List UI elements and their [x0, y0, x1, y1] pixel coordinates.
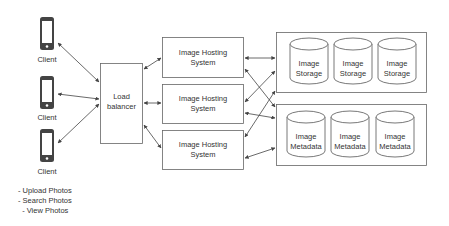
feature-notes: - Upload Photos - Search Photos - View P…: [18, 186, 72, 216]
svg-text:Metadata: Metadata: [379, 142, 411, 151]
hosting-system-2: Image Hosting System: [163, 85, 244, 124]
svg-text:Image: Image: [387, 59, 408, 68]
image-metadata-2: Image Metadata: [331, 111, 369, 157]
note-upload: - Upload Photos: [18, 186, 72, 196]
svg-text:Storage: Storage: [384, 69, 410, 78]
smartphone-icon: [40, 76, 54, 109]
svg-text:Image Hosting: Image Hosting: [179, 48, 227, 57]
svg-text:balancer: balancer: [107, 102, 136, 111]
svg-text:Image: Image: [340, 132, 361, 141]
hosting-system-3: Image Hosting System: [163, 131, 244, 170]
note-view: - View Photos: [18, 206, 72, 216]
lb-arrows: [144, 58, 161, 148]
storage-arrows: [245, 58, 275, 158]
client-label: Client: [37, 55, 57, 64]
image-storage-3: Image Storage: [378, 38, 416, 84]
image-metadata-1: Image Metadata: [287, 111, 325, 157]
svg-text:Storage: Storage: [296, 69, 322, 78]
smartphone-icon: [40, 17, 54, 50]
svg-text:System: System: [190, 150, 215, 159]
svg-text:Image: Image: [299, 59, 320, 68]
client-label: Client: [37, 167, 57, 176]
svg-text:Image: Image: [385, 132, 406, 141]
smartphone-icon: [40, 129, 54, 162]
svg-text:Metadata: Metadata: [334, 142, 366, 151]
note-search: - Search Photos: [18, 196, 72, 206]
client-2: Client: [37, 76, 57, 122]
image-storage-1: Image Storage: [290, 38, 328, 84]
svg-text:Image Hosting: Image Hosting: [179, 94, 227, 103]
svg-text:System: System: [190, 104, 215, 113]
client-3: Client: [37, 129, 57, 176]
svg-text:Image Hosting: Image Hosting: [179, 140, 227, 149]
image-metadata-3: Image Metadata: [376, 111, 414, 157]
svg-text:Image: Image: [343, 59, 364, 68]
image-storage-2: Image Storage: [334, 38, 372, 84]
svg-text:Metadata: Metadata: [290, 142, 322, 151]
svg-text:Load: Load: [113, 92, 130, 101]
client-label: Client: [37, 113, 57, 122]
svg-text:Image: Image: [296, 132, 317, 141]
client-arrows: [58, 43, 99, 143]
svg-text:Storage: Storage: [340, 69, 366, 78]
hosting-system-1: Image Hosting System: [163, 38, 244, 78]
client-1: Client: [37, 17, 57, 64]
svg-text:System: System: [190, 58, 215, 67]
load-balancer: Load balancer: [101, 64, 143, 144]
